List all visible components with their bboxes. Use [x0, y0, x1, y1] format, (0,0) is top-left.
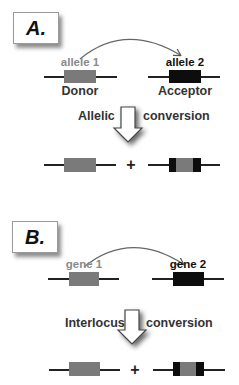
- result-b-right-box: [173, 362, 204, 376]
- acceptor-caption: Acceptor: [158, 84, 212, 98]
- panel-b-label: B.: [12, 221, 58, 253]
- process-a-right: conversion: [143, 109, 210, 123]
- acceptor-allele-box: [169, 70, 201, 83]
- panel-b-letter: B.: [25, 226, 45, 249]
- result-b-left-box: [69, 362, 100, 376]
- gene-2-box: [173, 272, 204, 286]
- plus-sign-b: +: [130, 361, 139, 379]
- plus-sign-a: +: [126, 156, 135, 174]
- donor-caption: Donor: [62, 84, 99, 98]
- result-a-left-box: [64, 158, 96, 172]
- down-arrow-a: [114, 107, 142, 142]
- allele-2-label: allele 2: [166, 56, 204, 68]
- donor-allele-box: [64, 70, 96, 83]
- gene-1-box: [69, 272, 99, 286]
- process-b-left: Interlocus: [65, 316, 125, 330]
- gene-2-label: gene 2: [170, 258, 206, 270]
- process-b-right: conversion: [146, 316, 213, 330]
- gene-1-label: gene 1: [66, 258, 102, 270]
- allele-1-label: allele 1: [61, 56, 99, 68]
- result-a-right-box: [169, 158, 201, 172]
- process-a-left: Allelic: [78, 109, 115, 123]
